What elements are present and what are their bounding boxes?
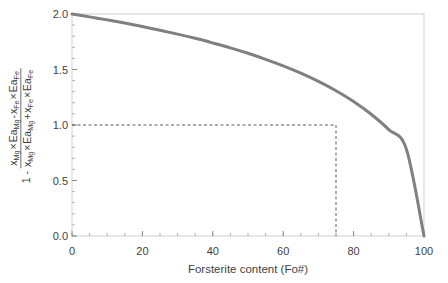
chart-figure: 1 - xMg×EaMg-xFe×EaFe xMg×EaMg+xFe×EaFe … <box>0 0 448 283</box>
plot-area <box>0 0 448 283</box>
reference-lines <box>72 125 336 236</box>
